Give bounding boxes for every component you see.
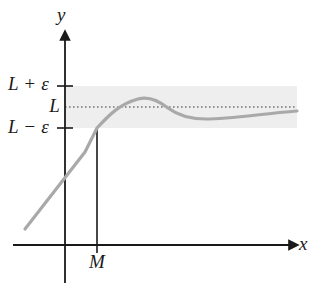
plot-canvas bbox=[0, 0, 319, 293]
limit-diagram-figure: L + ε L L − ε M y x bbox=[0, 0, 319, 293]
x-tick-label-m: M bbox=[89, 252, 105, 271]
y-tick-label-lower: L − ε bbox=[8, 117, 49, 136]
y-axis-label: y bbox=[57, 5, 66, 24]
x-axis-label: x bbox=[299, 234, 308, 253]
y-tick-label-upper: L + ε bbox=[8, 74, 49, 93]
y-tick-label-limit: L bbox=[8, 96, 60, 115]
